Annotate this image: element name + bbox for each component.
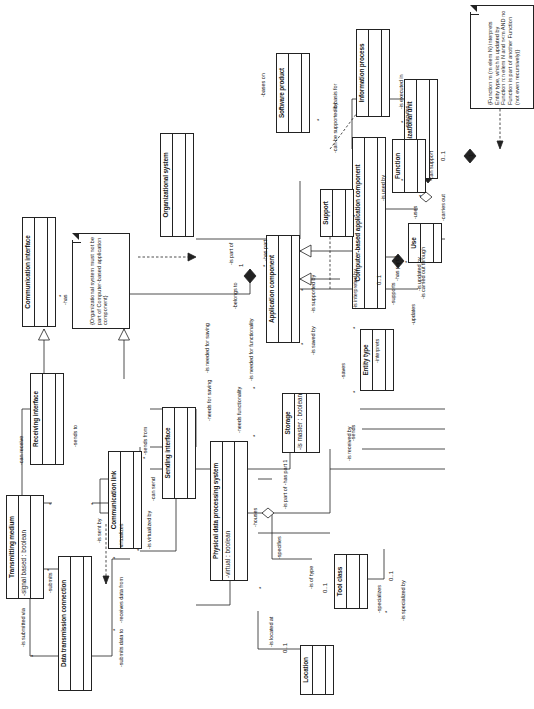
assoc-label-is-needed-for-functionality: -is needed for functionality <box>248 319 254 382</box>
multiplicity: * <box>258 587 264 589</box>
class-name: Support <box>321 190 333 236</box>
class-application-component[interactable]: Application component <box>266 235 300 343</box>
class-location[interactable]: Location <box>300 645 334 695</box>
multiplicity: * <box>252 387 258 389</box>
multiplicity: * <box>252 435 258 437</box>
multiplicity: 0..1 <box>376 275 382 285</box>
class-attributes <box>369 30 382 116</box>
class-name: Application component <box>267 236 279 342</box>
class-name: Receiving interface <box>31 374 43 464</box>
multiplicity: * <box>352 215 358 217</box>
assoc-label-is-needed-for-saving: -is needed for saving <box>204 323 210 373</box>
multiplicity: 1 <box>468 154 474 157</box>
assoc-label-can-be-supported-by: -can be supported by <box>332 102 338 153</box>
assoc-label-saves: -saves <box>340 363 346 379</box>
assoc-label-supports: -supports <box>390 283 396 305</box>
class-storage[interactable]: Storage -is master : boolean <box>282 393 320 453</box>
multiplicity: * <box>112 557 118 559</box>
multiplicity: 1 <box>396 262 402 265</box>
class-operations <box>188 408 200 498</box>
multiplicity: * <box>90 503 96 505</box>
assoc-label-is-sent-by: -is sent by <box>96 519 102 543</box>
multiplicity: * <box>142 457 148 459</box>
multiplicity: * <box>300 289 306 291</box>
assoc-label-belongs-to: -belongs to <box>232 282 238 309</box>
assoc-label-is-updated-by: -is updated by <box>416 257 422 291</box>
class-attributes <box>313 646 326 694</box>
class-tool-class[interactable]: Tool class <box>334 554 368 609</box>
class-function[interactable]: Function <box>392 139 426 193</box>
assoc-label-is-received-by: -is received by <box>346 426 352 461</box>
class-receiving-interface[interactable]: Receiving interface <box>30 373 64 465</box>
multiplicity: 0..1 <box>388 571 394 581</box>
multiplicity: * <box>58 295 64 297</box>
class-name: Transmitting medium <box>7 496 19 598</box>
assoc-label-is-saved-by: -is saved by <box>310 326 316 355</box>
assoc-label-is-of-type: -is of type <box>308 566 314 589</box>
multiplicity: * <box>352 391 358 393</box>
multiplicity: 0..1 <box>282 643 288 653</box>
assoc-label-carries-out: -carries out <box>440 194 446 221</box>
assoc-label-is-used-by: -is used by <box>380 175 386 201</box>
class-software-product[interactable]: Software product <box>276 53 310 133</box>
assoc-label-is-supported-by: -is supported by <box>310 275 316 313</box>
note-text: {Function m (m elem N) interprets Entity… <box>487 11 519 105</box>
class-communication-link[interactable]: Communication link <box>108 451 142 549</box>
class-attributes: -is master : boolean <box>295 394 307 452</box>
assoc-label-bases-on: -bases on <box>260 73 266 97</box>
note-function-constraint: {Function m (m elem N) interprets Entity… <box>470 5 534 109</box>
assoc-label-can-support: -can support <box>428 151 434 181</box>
class-organizational-system[interactable]: Organizational system <box>160 133 194 237</box>
multiplicity: * <box>400 121 406 123</box>
assoc-label-needs-functionality: -needs functionality <box>236 387 242 433</box>
assoc-label-specializes: -specializes <box>376 585 382 613</box>
class-data-transmission-connection[interactable]: Data transmission connection <box>58 556 92 691</box>
class-information-process[interactable]: Information process <box>356 29 390 117</box>
class-attributes: -virtual : boolean <box>223 442 235 580</box>
assoc-label-sends-from: -sends from <box>142 427 148 455</box>
multiplicity: * <box>400 179 406 181</box>
multiplicity: * <box>136 549 142 551</box>
assoc-label-is-submitted-via: -is submitted via <box>20 608 26 647</box>
assoc-label-updates: -updates <box>410 304 416 325</box>
multiplicity: * <box>112 629 118 631</box>
multiplicity: * <box>262 265 268 267</box>
assoc-label-sends-to: -sends to <box>72 425 78 447</box>
class-communication-interface[interactable]: Communication interface <box>22 217 56 327</box>
note-fold-icon <box>471 6 479 15</box>
class-name: Organizational system <box>161 134 173 236</box>
assoc-label-is-part-of-has-part: -is part of -has part 1 <box>282 460 288 509</box>
multiplicity: 0..1 <box>440 151 446 161</box>
assoc-label-has-part-1: -has part 1 <box>394 255 400 281</box>
multiplicity: * <box>316 119 322 121</box>
class-attributes <box>279 236 292 342</box>
class-name: Function <box>393 140 405 192</box>
class-name: Tool class <box>335 555 347 608</box>
class-attributes <box>35 218 48 326</box>
class-operations <box>84 557 96 690</box>
assoc-label-houses: -houses <box>252 508 258 527</box>
multiplicity: * <box>48 503 54 505</box>
class-operations <box>235 442 246 580</box>
assoc-label-submits: -submits <box>47 573 53 593</box>
class-attributes <box>173 134 186 236</box>
class-transmitting-medium[interactable]: Transmitting medium -signal based : bool… <box>6 495 44 599</box>
class-operations <box>326 646 338 694</box>
class-sending-interface[interactable]: Sending interface <box>162 407 196 499</box>
assoc-label-is-interpreted-by: -is interpreted by <box>352 269 358 309</box>
assoc-label-executes: -executes <box>404 106 410 129</box>
assoc-label-has-part: -has part <box>262 240 268 261</box>
class-name: Sending interface <box>163 408 175 498</box>
class-support[interactable]: Support <box>320 189 354 237</box>
class-operations <box>134 452 146 548</box>
assoc-label-is-executed-in: -is executed in <box>398 74 404 109</box>
class-physical-data-processing-system[interactable]: Physical data processing system -virtual… <box>210 441 248 581</box>
assoc-label-needs-for-saving: -needs for saving <box>206 380 212 421</box>
class-operations <box>360 555 372 608</box>
class-attributes <box>405 140 418 192</box>
class-operations <box>346 190 358 236</box>
class-name: Communication interface <box>23 218 35 326</box>
class-name: Software product <box>277 54 289 132</box>
class-operations <box>31 496 42 598</box>
